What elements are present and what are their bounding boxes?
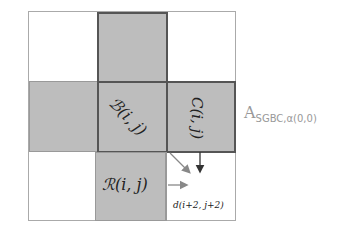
side-label: ASGBC,α(0,0)	[244, 103, 317, 124]
arrow-from-B	[170, 153, 189, 172]
side-label-main: A	[244, 103, 256, 122]
side-label-sub: SGBC,α(0,0)	[256, 113, 317, 124]
